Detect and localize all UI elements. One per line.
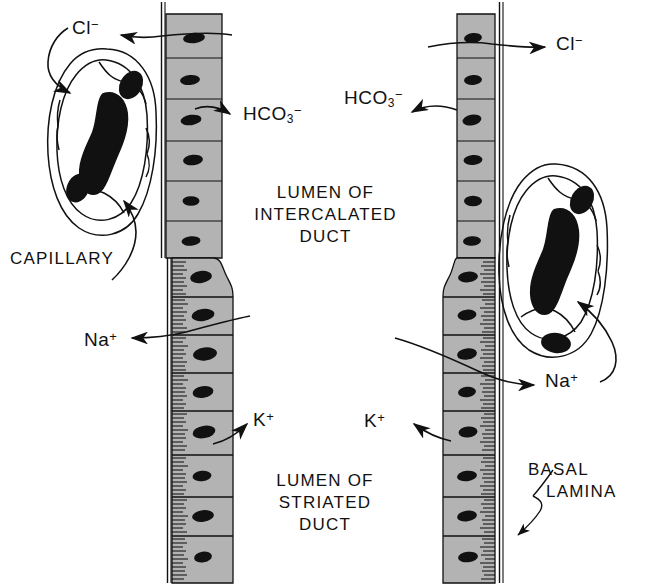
label-chloride-left: Cl− (72, 17, 99, 39)
label-lumen-striated-duct: LUMEN OFSTRIATEDDUCT (255, 470, 395, 536)
left-duct-intercalated-epithelium (166, 14, 222, 258)
label-chloride-right: Cl− (556, 33, 583, 55)
label-bicarbonate-right: HCO3− (344, 87, 403, 110)
label-bicarbonate-left: HCO3− (243, 103, 302, 126)
label-potassium-right: K+ (364, 410, 385, 432)
label-capillary: CAPILLARY (10, 248, 114, 270)
right-duct-striated-epithelium (443, 258, 495, 583)
left-duct-striated-epithelium (172, 258, 233, 583)
label-sodium-left: Na+ (84, 329, 117, 351)
label-sodium-right: Na+ (545, 370, 578, 392)
arrow-na-into-capillary-right (578, 302, 616, 382)
right-duct-intercalated-epithelium (457, 14, 495, 258)
left-capillary-nuclei (62, 67, 148, 207)
right-capillary-nuclei (530, 182, 599, 355)
label-potassium-left: K+ (253, 409, 274, 431)
arrow-bicarbonate-right (412, 106, 457, 112)
label-lumen-intercalated-duct: LUMEN OFINTERCALATEDDUCT (233, 182, 418, 248)
figure-canvas: Cl− HCO3− Na+ K+ CAPILLARY Cl− HCO3− Na+… (0, 0, 647, 585)
label-basal-lamina: BASALLAMINA (528, 459, 617, 503)
